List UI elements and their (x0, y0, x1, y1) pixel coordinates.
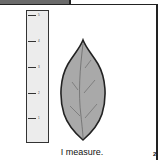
ruler-tick-label: 1 (38, 117, 40, 120)
ruler-tick (28, 41, 36, 42)
ruler-tick (28, 15, 36, 16)
page-number: 2 (153, 151, 156, 157)
ruler-tick-label: 3 (38, 66, 40, 69)
ruler-tick (28, 67, 36, 68)
ruler: 5 4 3 2 1 (26, 10, 49, 143)
leaf-icon (58, 38, 108, 142)
ruler-tick-label: 4 (38, 40, 40, 43)
caption-text: I measure. (0, 147, 164, 157)
ruler-tick (28, 93, 36, 94)
ruler-tick (28, 118, 36, 119)
ruler-tick-label: 2 (38, 92, 40, 95)
ruler-tick-label: 5 (38, 14, 40, 17)
